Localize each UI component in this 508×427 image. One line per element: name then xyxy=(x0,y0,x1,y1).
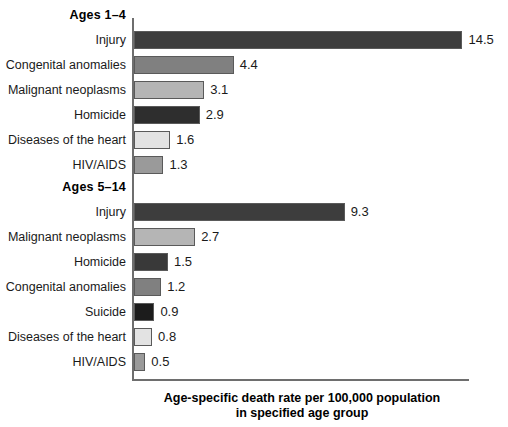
bar xyxy=(134,253,168,271)
bar-category-label: Diseases of the heart xyxy=(0,327,126,347)
bar xyxy=(134,131,170,149)
bar-category-label: Congenital anomalies xyxy=(0,277,126,297)
bar-value-label: 1.2 xyxy=(167,277,185,297)
bar-category-label: Injury xyxy=(0,202,126,222)
bar xyxy=(134,56,234,74)
axis-title-line-1: Age-specific death rate per 100,000 popu… xyxy=(132,391,472,406)
bar xyxy=(134,328,152,346)
bar-category-label: Homicide xyxy=(0,252,126,272)
bar xyxy=(134,228,195,246)
group-header-2: Ages 5–14 xyxy=(0,180,126,194)
bar xyxy=(134,31,462,49)
bar-row: Injury9.3 xyxy=(0,202,508,222)
bar xyxy=(134,106,200,124)
bar-chart: Ages 1–4Injury14.5Congenital anomalies4.… xyxy=(0,0,508,427)
bar-category-label: Malignant neoplasms xyxy=(0,227,126,247)
bar-row: HIV/AIDS1.3 xyxy=(0,155,508,175)
plot-area: Ages 1–4Injury14.5Congenital anomalies4.… xyxy=(0,0,508,385)
bar-row: Malignant neoplasms3.1 xyxy=(0,80,508,100)
bar xyxy=(134,353,145,371)
bar xyxy=(134,278,161,296)
bar-row: Diseases of the heart0.8 xyxy=(0,327,508,347)
group-header-1: Ages 1–4 xyxy=(0,8,126,22)
bar-category-label: Injury xyxy=(0,30,126,50)
axis-baseline xyxy=(132,379,469,381)
bar-row: Congenital anomalies1.2 xyxy=(0,277,508,297)
bar-value-label: 2.9 xyxy=(206,105,224,125)
bar-value-label: 9.3 xyxy=(351,202,369,222)
bar-row: Homicide1.5 xyxy=(0,252,508,272)
bar xyxy=(134,156,163,174)
axis-title-line-2: in specified age group xyxy=(132,406,472,421)
bar-category-label: Diseases of the heart xyxy=(0,130,126,150)
bar-value-label: 1.6 xyxy=(176,130,194,150)
bar-category-label: Congenital anomalies xyxy=(0,55,126,75)
axis-title: Age-specific death rate per 100,000 popu… xyxy=(132,391,472,421)
bar-value-label: 2.7 xyxy=(201,227,219,247)
bar-value-label: 0.8 xyxy=(158,327,176,347)
bar-value-label: 0.9 xyxy=(160,302,178,322)
bar-row: Suicide0.9 xyxy=(0,302,508,322)
bar-value-label: 14.5 xyxy=(468,30,493,50)
bar-value-label: 3.1 xyxy=(210,80,228,100)
bar-category-label: Suicide xyxy=(0,302,126,322)
bar xyxy=(134,81,204,99)
bar-category-label: Malignant neoplasms xyxy=(0,80,126,100)
bar xyxy=(134,303,154,321)
bar-row: Homicide2.9 xyxy=(0,105,508,125)
bar-value-label: 1.3 xyxy=(169,155,187,175)
bar-value-label: 1.5 xyxy=(174,252,192,272)
bar-category-label: HIV/AIDS xyxy=(0,352,126,372)
bar-value-label: 0.5 xyxy=(151,352,169,372)
bar-row: Injury14.5 xyxy=(0,30,508,50)
bar xyxy=(134,203,345,221)
bar-row: Malignant neoplasms2.7 xyxy=(0,227,508,247)
bar-row: Diseases of the heart1.6 xyxy=(0,130,508,150)
bar-value-label: 4.4 xyxy=(240,55,258,75)
bar-row: HIV/AIDS0.5 xyxy=(0,352,508,372)
bar-category-label: HIV/AIDS xyxy=(0,155,126,175)
bar-category-label: Homicide xyxy=(0,105,126,125)
bar-row: Congenital anomalies4.4 xyxy=(0,55,508,75)
